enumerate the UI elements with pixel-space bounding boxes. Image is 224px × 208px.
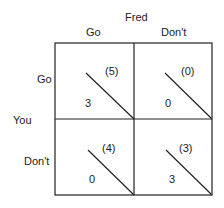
you-payoff: 0 <box>165 98 171 109</box>
row-header-dont: Don't <box>24 156 49 167</box>
cell-diagonal <box>86 73 134 119</box>
column-header-dont: Don't <box>161 27 186 38</box>
row-player-label: You <box>13 115 32 126</box>
cell-diagonal <box>165 73 212 119</box>
fred-payoff: (5) <box>105 66 118 77</box>
fred-payoff: (0) <box>181 66 194 77</box>
you-payoff: 0 <box>89 174 95 185</box>
you-payoff: 3 <box>169 174 175 185</box>
fred-payoff: (4) <box>102 143 115 154</box>
payoff-grid <box>0 0 224 208</box>
fred-payoff: (3) <box>179 143 192 154</box>
column-player-label: Fred <box>125 12 148 23</box>
column-header-go: Go <box>86 27 101 38</box>
row-header-go: Go <box>37 74 52 85</box>
you-payoff: 3 <box>85 98 91 109</box>
